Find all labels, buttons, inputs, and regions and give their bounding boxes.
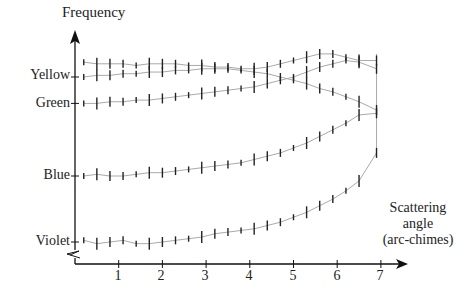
- x-axis-title: Scattering angle (arc-chimes): [368, 200, 468, 248]
- chart-plot: [0, 0, 476, 303]
- x-tick-5: 5: [283, 268, 303, 284]
- x-axis-title-line1: Scattering: [368, 200, 468, 216]
- x-tick-7: 7: [370, 268, 390, 284]
- x-axis-title-line3: (arc-chimes): [368, 232, 468, 248]
- x-tick-4: 4: [239, 268, 259, 284]
- y-axis-title: Frequency: [62, 4, 125, 21]
- x-axis-title-line2: angle: [368, 216, 468, 232]
- y-tick-yellow: Yellow: [0, 67, 70, 83]
- x-tick-2: 2: [151, 268, 171, 284]
- y-tick-blue: Blue: [0, 167, 70, 183]
- x-tick-6: 6: [327, 268, 347, 284]
- y-tick-green: Green: [0, 95, 70, 111]
- x-tick-3: 3: [195, 268, 215, 284]
- x-tick-1: 1: [108, 268, 128, 284]
- y-tick-violet: Violet: [0, 233, 70, 249]
